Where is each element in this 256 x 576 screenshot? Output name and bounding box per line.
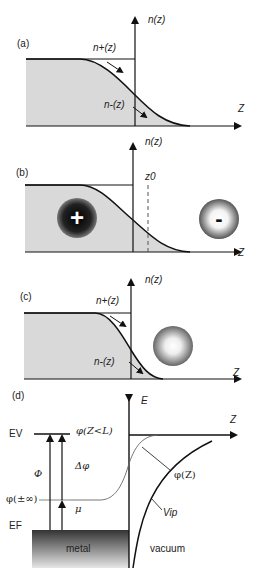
neutral-particle: [153, 326, 193, 366]
panel-label-b: (b): [16, 167, 28, 178]
phi-inf-label: φ(±∞): [6, 493, 38, 504]
plus-sign-icon: +: [70, 204, 84, 231]
minus-sign-icon: -: [215, 206, 222, 231]
panel-c: (c) n(z) Z n+(z) n-(z): [20, 274, 240, 379]
y-axis-label-b: n(z): [145, 136, 162, 147]
diagram-canvas: (a) n(z) Z n+(z) n-(z) + - (b) n(z) Z z0…: [0, 0, 256, 576]
delta-phi-label: Δφ: [74, 460, 89, 471]
n-minus-label-a: n-(z): [104, 99, 125, 110]
panel-label-a: (a): [17, 38, 29, 49]
phi-z-pointer: [142, 447, 170, 470]
panel-d: (d) E Z EV EF φ(Z<L) Δφ Φ φ(±∞) μ φ(Z) V…: [6, 390, 237, 568]
work-function-label: Φ: [34, 468, 42, 479]
vacuum-label: vacuum: [150, 543, 185, 554]
y-axis-label-c: n(z): [145, 274, 162, 285]
z0-label: z0: [144, 171, 156, 182]
ef-label: EF: [9, 520, 22, 531]
density-fill: [24, 313, 163, 379]
panel-b: + - (b) n(z) Z z0: [16, 136, 245, 258]
x-axis-label-b: Z: [237, 247, 245, 258]
panel-a: (a) n(z) Z n+(z) n-(z): [17, 14, 245, 126]
n-plus-label-c: n+(z): [96, 295, 119, 306]
vip-pointer: [151, 498, 162, 510]
x-axis-label-d: Z: [229, 414, 237, 425]
y-axis-label-d: E: [141, 395, 148, 406]
phi-z-less-l-label: φ(Z<L): [76, 425, 113, 436]
panel-label-d: (d): [12, 390, 24, 401]
n-plus-label-a: n+(z): [93, 42, 116, 53]
density-fill: [25, 185, 190, 252]
x-axis-label-c: Z: [232, 367, 240, 378]
mu-label: μ: [75, 503, 82, 514]
panel-label-c: (c): [20, 291, 32, 302]
density-fill: [26, 59, 190, 126]
n-minus-label-c: n-(z): [94, 356, 115, 367]
metal-label: metal: [66, 543, 90, 554]
vip-label: Vip: [163, 507, 178, 518]
x-axis-label-a: Z: [237, 103, 245, 114]
phi-z-label: φ(Z): [174, 469, 196, 480]
ev-label: EV: [9, 428, 23, 439]
y-axis-label-a: n(z): [148, 14, 165, 25]
